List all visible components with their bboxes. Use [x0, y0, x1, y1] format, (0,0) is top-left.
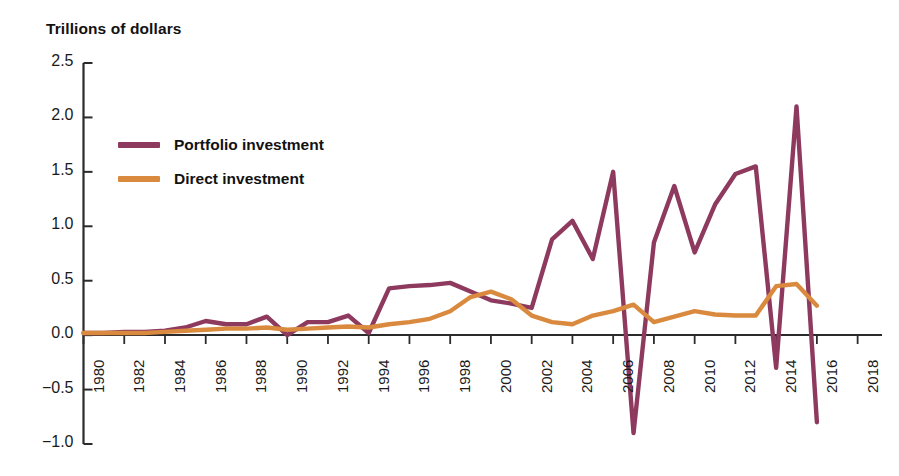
y-tick-label: 0.0 — [22, 324, 74, 342]
legend-label: Direct investment — [174, 170, 304, 188]
y-tick-label: 1.5 — [22, 161, 74, 179]
x-tick-label: 1998 — [456, 360, 473, 393]
legend-swatch-icon — [118, 176, 160, 182]
x-tick-label: 2016 — [823, 360, 840, 393]
y-tick-label: 2.5 — [22, 52, 74, 70]
y-tick-label: −0.5 — [22, 379, 74, 397]
x-tick-label: 2008 — [660, 360, 677, 393]
x-tick-label: 1984 — [171, 360, 188, 393]
x-tick-label: 2000 — [497, 360, 514, 393]
x-tick-label: 1994 — [375, 360, 392, 393]
x-tick-label: 2012 — [741, 360, 758, 393]
x-tick-label: 1986 — [212, 360, 229, 393]
axis-lines — [84, 63, 883, 444]
y-tick-label: 0.5 — [22, 270, 74, 288]
x-tick-label: 2018 — [864, 360, 881, 393]
x-axis-ticks — [84, 335, 858, 344]
legend-item[interactable]: Direct investment — [118, 162, 324, 196]
x-tick-label: 1982 — [130, 360, 147, 393]
x-tick-label: 2004 — [578, 360, 595, 393]
x-tick-label: 1992 — [334, 360, 351, 393]
x-tick-label: 1996 — [415, 360, 432, 393]
x-tick-label: 1980 — [90, 360, 107, 393]
x-tick-label: 1988 — [252, 360, 269, 393]
legend-swatch-icon — [118, 142, 160, 148]
x-tick-label: 1990 — [293, 360, 310, 393]
x-tick-label: 2006 — [619, 360, 636, 393]
x-tick-label: 2002 — [538, 360, 555, 393]
legend-item[interactable]: Portfolio investment — [118, 128, 324, 162]
legend-label: Portfolio investment — [174, 136, 324, 154]
x-tick-label: 2014 — [782, 360, 799, 393]
x-tick-label: 2010 — [701, 360, 718, 393]
y-tick-label: −1.0 — [22, 433, 74, 451]
y-tick-label: 2.0 — [22, 106, 74, 124]
plot-area — [0, 0, 899, 476]
chart-figure: Trillions of dollars 2.52.01.51.00.50.0−… — [0, 0, 899, 476]
chart-legend: Portfolio investmentDirect investment — [118, 128, 324, 196]
y-tick-label: 1.0 — [22, 215, 74, 233]
